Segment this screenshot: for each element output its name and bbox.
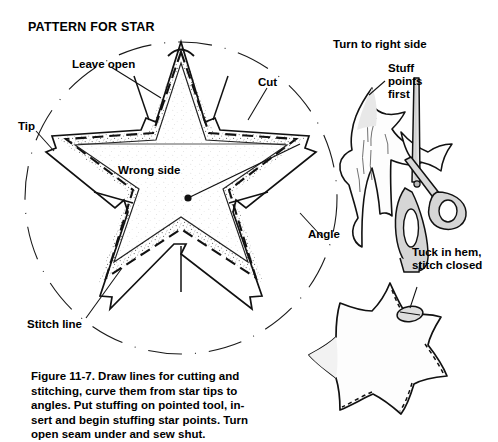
label-turn-to-right-side: Turn to right side xyxy=(333,38,427,51)
leader-leave-open xyxy=(111,67,161,98)
label-stitch-line: Stitch line xyxy=(27,318,82,331)
scissors-tool xyxy=(395,78,466,272)
figure-caption: Figure 11-7. Draw lines for cutting and … xyxy=(31,369,331,442)
label-cut: Cut xyxy=(258,76,277,89)
scissors-pivot xyxy=(414,181,420,187)
label-stuff-points-first: Stuff points first xyxy=(388,62,423,101)
label-angle: Angle xyxy=(308,228,340,241)
leader-tuck-in-hem xyxy=(410,287,417,308)
leader-cut xyxy=(248,88,267,120)
star-pattern-diagram xyxy=(25,42,337,354)
label-wrong-side: Wrong side xyxy=(118,164,180,177)
label-tuck-in-hem: Tuck in hem, stitch closed xyxy=(412,246,482,272)
pattern-inner-star-texture xyxy=(75,63,287,262)
pattern-center-dot xyxy=(184,194,191,201)
stuffing-tool-diagram xyxy=(340,78,466,272)
leader-tip xyxy=(36,131,54,151)
page-title: PATTERN FOR STAR xyxy=(28,20,155,34)
scissors-handle-right-hole xyxy=(439,200,457,222)
label-tip: Tip xyxy=(18,120,35,133)
label-leave-open: Leave open xyxy=(72,58,135,71)
scissors-handle-left-hole xyxy=(404,209,419,247)
